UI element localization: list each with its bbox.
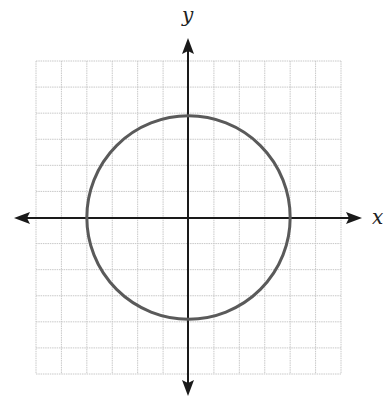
y-axis-label: y (181, 3, 194, 27)
coordinate-plane-figure: x y (0, 0, 390, 407)
axes (14, 38, 362, 396)
x-axis-label: x (372, 205, 383, 229)
